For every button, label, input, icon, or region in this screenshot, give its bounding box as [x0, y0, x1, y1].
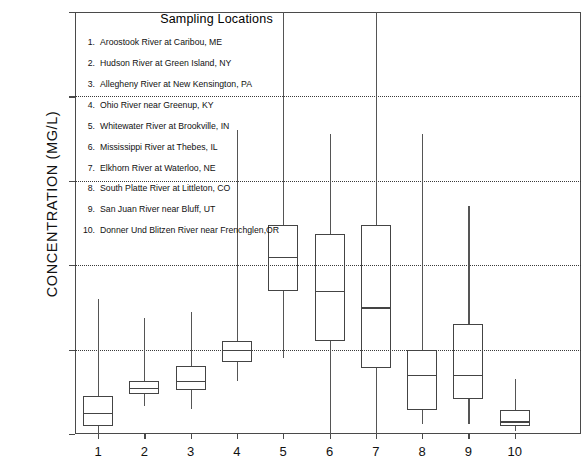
legend-item-3: 3.Allegheny River at New Kensington, PA [75, 80, 375, 89]
legend-title: Sampling Locations [109, 12, 324, 26]
legend-item-label: Ohio River near Greenup, KY [100, 101, 213, 110]
legend-item-number: 6. [75, 143, 95, 152]
legend-item-number: 2. [75, 59, 95, 68]
legend-item-6: 6.Mississippi River at Thebes, IL [75, 143, 375, 152]
legend-item-number: 9. [75, 205, 95, 214]
legend-item-number: 1. [75, 38, 95, 47]
legend-item-label: South Platte River at Littleton, CO [100, 184, 230, 193]
legend-item-label: Allegheny River at New Kensington, PA [100, 80, 252, 89]
x-tick-label-1: 1 [80, 444, 116, 459]
x-tick-label-4: 4 [219, 444, 255, 459]
x-tick-label-9: 9 [450, 444, 486, 459]
x-tick-label-7: 7 [358, 444, 394, 459]
x-tick-label-6: 6 [312, 444, 348, 459]
legend-item-7: 7.Elkhorn River at Waterloo, NE [75, 164, 375, 173]
legend-item-5: 5.Whitewater River at Brookville, IN [75, 122, 375, 131]
x-tick-label-3: 3 [173, 444, 209, 459]
legend-item-4: 4.Ohio River near Greenup, KY [75, 101, 375, 110]
legend-item-label: Hudson River at Green Island, NY [100, 59, 231, 68]
plot-area: 12345678910 Sampling Locations 1.Aroosto… [75, 12, 581, 434]
legend-item-label: Whitewater River at Brookville, IN [100, 122, 229, 131]
y-axis-title: CONCENTRATION (MG/L) [44, 54, 60, 354]
legend-item-number: 3. [75, 80, 95, 89]
legend-item-2: 2.Hudson River at Green Island, NY [75, 59, 375, 68]
chart-root: CONCENTRATION (MG/L) 012345 12345678910 … [0, 0, 581, 463]
whisker-lower-10 [515, 426, 516, 431]
legend-item-8: 8.South Platte River at Littleton, CO [75, 184, 375, 193]
legend-list: 1.Aroostook River at Caribou, ME2.Hudson… [75, 38, 375, 235]
legend-item-label: Aroostook River at Caribou, ME [100, 38, 222, 47]
x-tick-label-2: 2 [126, 444, 162, 459]
legend-item-9: 9.San Juan River near Bluff, UT [75, 205, 375, 214]
x-tick-label-10: 10 [497, 444, 533, 459]
y-tick-0 [69, 434, 75, 435]
x-tick-label-5: 5 [265, 444, 301, 459]
legend-item-1: 1.Aroostook River at Caribou, ME [75, 38, 375, 47]
legend-item-label: Elkhorn River at Waterloo, NE [100, 164, 216, 173]
legend-item-10: 10.Donner Und Blitzen River near Frenchg… [75, 226, 375, 235]
legend-item-number: 7. [75, 164, 95, 173]
legend: Sampling Locations 1.Aroostook River at … [75, 12, 375, 235]
legend-item-number: 5. [75, 122, 95, 131]
legend-item-number: 4. [75, 101, 95, 110]
legend-item-label: Mississippi River at Thebes, IL [100, 143, 218, 152]
legend-item-number: 10. [75, 226, 95, 235]
median-line-10 [500, 421, 530, 422]
legend-item-label: San Juan River near Bluff, UT [100, 205, 215, 214]
legend-item-label: Donner Und Blitzen River near Frenchglen… [100, 226, 279, 235]
whisker-upper-10 [515, 379, 516, 410]
box-iqr-10 [500, 410, 530, 425]
legend-item-number: 8. [75, 184, 95, 193]
x-tick-label-8: 8 [404, 444, 440, 459]
